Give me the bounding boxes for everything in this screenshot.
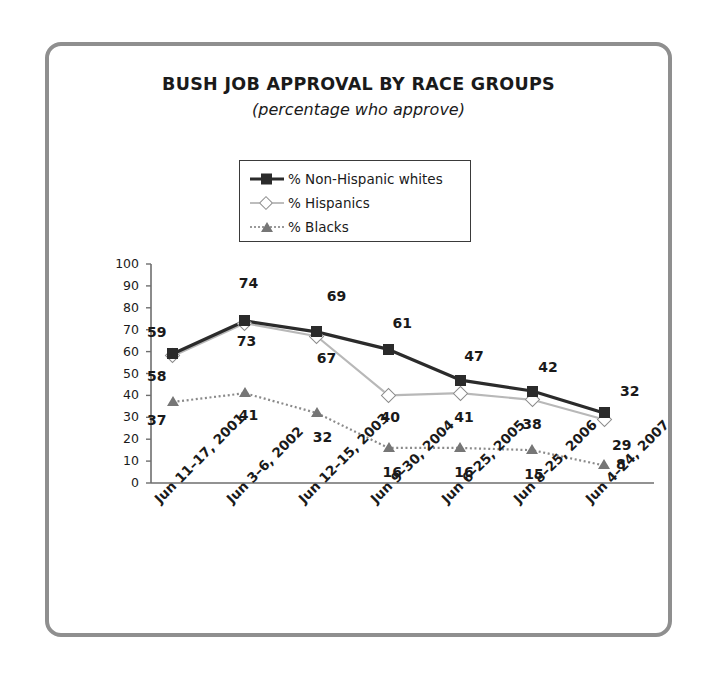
y-axis-tick-label: 0 (107, 475, 139, 490)
data-point-marker (381, 388, 397, 404)
x-axis-tick-label: Jun 11–17, 2001 (151, 410, 248, 507)
data-point-label: 47 (464, 348, 483, 364)
y-axis-tick-label: 70 (107, 322, 139, 337)
y-axis-tick-label: 40 (107, 387, 139, 402)
data-point-label: 16 (454, 464, 473, 480)
chart-title: BUSH JOB APPROVAL BY RACE GROUPS (49, 74, 668, 94)
data-point-label: 58 (147, 368, 166, 384)
data-point-label: 32 (620, 383, 639, 399)
data-point-label: 59 (147, 324, 166, 340)
data-point-marker (524, 392, 540, 408)
chart-subtitle: (percentage who approve) (49, 100, 668, 119)
x-axis-tick-label: Jun 9–30, 2004 (367, 416, 457, 506)
data-point-marker (237, 315, 253, 331)
y-axis-tick-label: 90 (107, 278, 139, 293)
data-point-marker (596, 412, 612, 428)
y-axis-tick-label: 30 (107, 409, 139, 424)
y-axis-tick-label: 50 (107, 366, 139, 381)
data-point-label: 29 (612, 437, 631, 453)
data-point-marker (239, 387, 251, 397)
data-point-label: 16 (383, 464, 402, 480)
y-axis-tick-label: 80 (107, 300, 139, 315)
data-point-label: 32 (313, 429, 332, 445)
data-point-marker (454, 442, 466, 452)
legend-label-non-hispanic-whites: % Non-Hispanic whites (288, 171, 443, 187)
y-axis-tick-label: 60 (107, 344, 139, 359)
data-point-marker (455, 375, 466, 386)
data-point-label: 41 (239, 407, 258, 423)
y-axis-tick-label: 20 (107, 431, 139, 446)
data-point-marker (383, 344, 394, 355)
data-point-label: 15 (524, 466, 543, 482)
data-point-label: 69 (327, 288, 346, 304)
legend-marker-open-diamond-icon (250, 195, 284, 211)
data-point-label: 8 (616, 456, 626, 472)
data-point-label: 42 (538, 359, 557, 375)
data-point-label: 37 (147, 412, 166, 428)
data-point-label: 67 (317, 350, 336, 366)
data-point-marker (311, 407, 323, 417)
x-axis-tick-label: Jun 6–25, 2005 (438, 416, 528, 506)
data-point-label: 40 (381, 409, 400, 425)
legend-label-blacks: % Blacks (288, 219, 349, 235)
data-point-marker (165, 348, 181, 364)
legend-item-hispanics: % Hispanics (250, 191, 470, 215)
x-axis-tick-label: Jun 3–6, 2002 (223, 423, 306, 506)
y-axis-tick-label: 100 (107, 256, 139, 271)
data-point-label: 41 (454, 409, 473, 425)
data-point-marker (383, 442, 395, 452)
legend-marker-filled-triangle-icon (250, 219, 284, 235)
legend-item-non-hispanic-whites: % Non-Hispanic whites (250, 167, 470, 191)
data-point-marker (453, 385, 469, 401)
data-point-label: 73 (237, 333, 256, 349)
data-point-marker (311, 326, 322, 337)
chart-legend: % Non-Hispanic whites % Hispanics % Blac… (239, 160, 471, 242)
chart-canvas (49, 46, 676, 641)
plot-area: 0102030405060708090100Jun 11–17, 2001Jun… (49, 46, 676, 641)
data-point-marker (526, 444, 538, 454)
x-axis-tick-label: Jun 12–15, 2003 (295, 410, 392, 507)
data-point-marker (599, 407, 610, 418)
data-point-label: 61 (393, 315, 412, 331)
y-axis-tick-label: 10 (107, 453, 139, 468)
legend-label-hispanics: % Hispanics (288, 195, 370, 211)
data-point-marker (598, 459, 610, 469)
data-point-marker (239, 315, 250, 326)
data-point-marker (167, 396, 179, 406)
data-point-marker (309, 328, 325, 344)
data-point-marker (167, 348, 178, 359)
data-point-label: 38 (522, 416, 541, 432)
legend-item-blacks: % Blacks (250, 215, 470, 239)
data-point-label: 74 (239, 275, 258, 291)
x-axis-tick-label: Jun 8–25, 2006 (510, 416, 600, 506)
data-point-marker (527, 386, 538, 397)
legend-marker-filled-square-icon (250, 171, 284, 187)
chart-card: BUSH JOB APPROVAL BY RACE GROUPS (percen… (45, 42, 672, 637)
x-axis-tick-label: Jun 4–24, 2007 (582, 416, 672, 506)
